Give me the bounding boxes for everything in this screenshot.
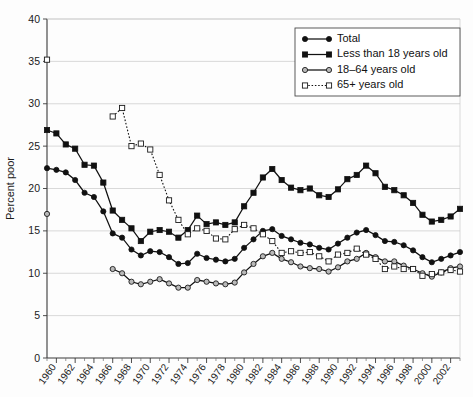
data-point-series-1 [420,212,425,217]
legend-marker-2 [302,67,307,72]
data-point-series-1 [129,226,134,231]
x-tick-label: 1982 [243,361,265,386]
data-point-series-0 [232,256,237,261]
data-point-series-1 [270,166,275,171]
data-point-series-1 [392,188,397,193]
x-tick-label: 1984 [262,361,284,386]
data-point-series-0 [223,259,228,264]
data-point-series-2 [213,281,218,286]
data-point-series-1 [110,208,115,213]
data-point-series-0 [335,241,340,246]
data-point-series-3 [279,250,284,255]
data-point-series-3 [401,266,406,271]
data-point-series-2 [195,277,200,282]
legend-marker-0 [302,36,307,41]
y-tick-label: 15 [28,224,40,236]
data-point-series-1 [317,193,322,198]
data-point-series-0 [185,260,190,265]
data-point-series-0 [298,240,303,245]
data-point-series-3 [439,270,444,275]
data-point-series-2 [307,266,312,271]
data-point-series-1 [204,221,209,226]
data-point-series-3 [448,267,453,272]
data-point-series-2 [204,279,209,284]
data-point-series-0 [279,233,284,238]
data-point-series-0 [129,247,134,252]
data-point-series-3 [195,226,200,231]
data-point-series-1 [260,175,265,180]
data-point-series-2 [157,277,162,282]
data-point-series-1 [73,146,78,151]
x-tick-label: 1990 [318,361,340,386]
data-point-series-3 [288,249,293,254]
legend-marker-1 [326,52,331,57]
data-point-series-2 [345,259,350,264]
y-tick-label: 5 [34,309,40,321]
data-point-series-2 [176,285,181,290]
x-tick-label: 1992 [337,361,359,386]
chart-canvas: 0510152025303540Percent poor196019621964… [0,0,473,397]
data-point-series-3 [298,250,303,255]
data-point-series-1 [335,187,340,192]
data-point-series-1 [429,219,434,224]
x-tick-label: 1970 [130,361,152,386]
data-point-series-2 [129,279,134,284]
data-point-series-2 [354,256,359,261]
data-point-series-2 [270,250,275,255]
data-point-series-3 [138,141,143,146]
data-point-series-2 [326,269,331,274]
data-point-series-0 [176,261,181,266]
data-point-series-3 [213,236,218,241]
data-point-series-3 [307,249,312,254]
data-point-series-0 [138,253,143,258]
data-point-series-0 [63,170,68,175]
y-tick-label: 10 [28,267,40,279]
data-point-series-3 [410,266,415,271]
y-tick-label: 25 [28,140,40,152]
x-tick-label: 1994 [355,361,377,386]
data-point-series-2 [185,285,190,290]
data-point-series-0 [82,190,87,195]
x-tick-label: 1966 [93,361,115,386]
data-point-series-3 [148,147,153,152]
data-point-series-0 [364,227,369,232]
data-point-series-2 [335,265,340,270]
data-point-series-2 [288,260,293,265]
data-point-series-0 [307,242,312,247]
data-point-series-1 [242,204,247,209]
data-point-series-1 [166,229,171,234]
data-point-series-1 [298,188,303,193]
data-point-series-1 [101,180,106,185]
data-point-series-2 [110,266,115,271]
x-tick-label: 2002 [430,361,452,386]
data-point-series-0 [373,233,378,238]
x-tick-label: 1996 [374,361,396,386]
data-point-series-3 [457,269,462,274]
data-point-series-3 [232,227,237,232]
data-point-series-1 [448,214,453,219]
x-tick-label: 1968 [111,361,133,386]
x-tick-label: 1976 [186,361,208,386]
data-point-series-1 [138,238,143,243]
data-point-series-0 [345,235,350,240]
data-point-series-0 [326,247,331,252]
data-point-series-1 [410,200,415,205]
data-point-series-3 [119,105,124,110]
data-point-series-0 [270,227,275,232]
data-point-series-2 [166,281,171,286]
data-point-series-2 [251,261,256,266]
legend-marker-3 [302,83,307,88]
y-tick-label: 35 [28,55,40,67]
data-point-series-2 [232,280,237,285]
data-point-series-1 [82,162,87,167]
data-point-series-1 [326,194,331,199]
data-point-series-1 [213,220,218,225]
data-point-series-0 [91,194,96,199]
data-point-series-1 [354,172,359,177]
data-point-series-1 [401,193,406,198]
x-tick-label: 1980 [224,361,246,386]
data-point-series-1 [439,217,444,222]
data-point-series-0 [166,255,171,260]
data-point-series-3 [345,250,350,255]
data-point-series-3 [373,256,378,261]
